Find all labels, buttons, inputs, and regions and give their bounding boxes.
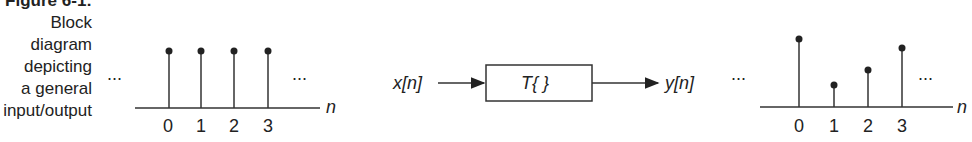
stem-dot: [831, 82, 838, 89]
stem-dot: [899, 45, 906, 52]
stem-dot: [865, 67, 872, 74]
left-ellipsis: ...: [731, 64, 746, 84]
output-stem-plot: ... ... n 0 1 2 3: [731, 36, 967, 137]
tick-label: 2: [229, 116, 239, 136]
axis-label-n: n: [957, 97, 967, 117]
right-ellipsis: ...: [292, 64, 307, 84]
output-label: y[n]: [663, 73, 695, 93]
axis-label-n: n: [326, 97, 336, 117]
input-stem-plot: ... ... n 0 1 2 3: [107, 48, 336, 137]
tick-label: 3: [263, 116, 273, 136]
tick-label: 2: [863, 116, 873, 136]
tick-label: 1: [829, 116, 839, 136]
stem-dot: [796, 36, 803, 43]
block-diagram: ... ... n 0 1 2 3 x[n] T{ } y[n] ...: [0, 0, 972, 142]
tick-label: 0: [163, 116, 173, 136]
system-label: T{ }: [521, 73, 549, 93]
system-block-diagram: x[n] T{ } y[n]: [392, 65, 695, 101]
tick-label: 0: [794, 116, 804, 136]
left-ellipsis: ...: [107, 64, 122, 84]
stem-dot: [166, 48, 173, 55]
tick-label: 1: [196, 116, 206, 136]
stem-dot: [231, 48, 238, 55]
stem-dot: [198, 48, 205, 55]
input-label: x[n]: [392, 73, 423, 93]
tick-label: 3: [897, 116, 907, 136]
stem-dot: [265, 48, 272, 55]
right-ellipsis: ...: [918, 64, 933, 84]
